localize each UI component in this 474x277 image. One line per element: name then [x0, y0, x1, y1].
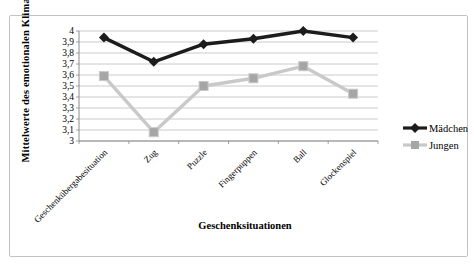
chart-figure: 43,93,83,73,63,53,43,33,23,13Geschenkübe…	[9, 15, 468, 257]
y-tick-label: 3,2	[62, 114, 74, 124]
y-tick-label: 3,3	[62, 103, 74, 113]
data-point-jungen-5	[349, 89, 358, 98]
maedchen-legend-marker-icon	[402, 122, 428, 134]
y-tick-label: 3,6	[62, 70, 74, 80]
legend-item-jungen: Jungen	[402, 139, 468, 151]
y-tick-label: 3,4	[62, 92, 74, 102]
x-category-label: Geschenkübergabesituation	[32, 147, 110, 225]
data-point-maedchen-5	[348, 33, 358, 43]
x-category-label: Ball	[291, 147, 309, 165]
data-point-jungen-2	[199, 82, 208, 91]
legend-label-maedchen: Mädchen	[429, 123, 468, 134]
jungen-legend-marker-icon	[402, 139, 428, 151]
legend-label-jungen: Jungen	[429, 140, 459, 151]
x-axis-title: Geschenksituationen	[120, 220, 370, 231]
data-point-jungen-4	[299, 62, 308, 71]
y-tick-label: 3,9	[62, 37, 74, 47]
x-category-label: Glockenspiel	[318, 147, 359, 188]
y-tick-label: 3,1	[62, 125, 74, 135]
y-tick-label: 3,5	[62, 81, 74, 91]
legend: Mädchen Jungen	[402, 122, 468, 151]
data-point-maedchen-2	[199, 39, 209, 49]
series-line-maedchen	[104, 31, 353, 62]
y-tick-label: 4	[69, 26, 74, 36]
legend-item-maedchen: Mädchen	[402, 122, 468, 134]
y-tick-label: 3,7	[62, 59, 74, 69]
series-line-jungen	[104, 66, 353, 132]
x-category-label: Puzzle	[185, 147, 209, 171]
data-point-maedchen-4	[298, 26, 308, 36]
data-point-jungen-3	[249, 74, 258, 83]
x-category-label: Fingerpuppen	[216, 147, 259, 190]
y-axis-title: Mittelwerte des emotionalen Klimas*	[20, 13, 31, 163]
y-tick-label: 3	[69, 136, 74, 146]
x-category-label: Zug	[142, 147, 160, 165]
y-tick-label: 3,8	[62, 48, 74, 58]
data-point-jungen-1	[149, 128, 158, 137]
data-point-jungen-0	[99, 72, 108, 81]
